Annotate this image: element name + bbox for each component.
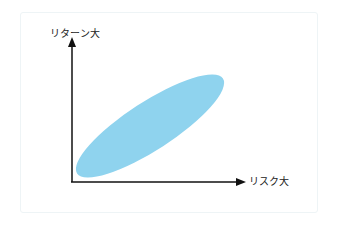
y-axis-label: リターン大 [50,29,100,39]
x-axis-label: リスク大 [249,177,289,187]
x-axis-arrow-icon [236,178,246,186]
risk-return-ellipse [64,58,236,193]
